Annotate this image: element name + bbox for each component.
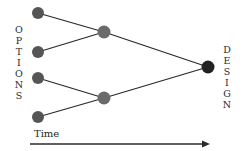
edge-merge-upper-to-design bbox=[104, 32, 208, 67]
design-label-letter: D bbox=[223, 44, 231, 55]
edge-merge-lower-to-design bbox=[104, 67, 208, 98]
options-label: OPTIONS bbox=[14, 24, 24, 101]
design-label: DESIGN bbox=[222, 44, 232, 110]
time-arrow bbox=[30, 141, 210, 148]
nodes bbox=[32, 7, 215, 123]
options-label-letter: I bbox=[17, 57, 21, 68]
design-label-letter: E bbox=[224, 55, 231, 66]
node-option-2 bbox=[32, 46, 44, 58]
time-label: Time bbox=[34, 128, 59, 139]
time-arrowhead-icon bbox=[202, 141, 210, 148]
node-option-1 bbox=[32, 7, 44, 19]
node-option-3 bbox=[32, 72, 44, 84]
edge-option-2-to-merge-upper bbox=[38, 32, 104, 52]
options-label-letter: P bbox=[16, 35, 22, 46]
design-label-letter: S bbox=[224, 66, 231, 77]
node-merge-lower bbox=[98, 92, 111, 105]
edge-option-3-to-merge-lower bbox=[38, 78, 104, 98]
options-label-letter: O bbox=[15, 24, 23, 35]
node-merge-upper bbox=[98, 26, 111, 39]
edge-option-4-to-merge-lower bbox=[38, 98, 104, 117]
edges bbox=[38, 13, 208, 117]
options-label-letter: O bbox=[15, 68, 23, 79]
options-label-letter: S bbox=[16, 90, 23, 101]
edge-option-1-to-merge-upper bbox=[38, 13, 104, 32]
options-label-letter: T bbox=[16, 46, 22, 57]
design-label-letter: N bbox=[223, 99, 231, 110]
options-label-letter: N bbox=[15, 79, 23, 90]
node-design bbox=[202, 61, 215, 74]
design-label-letter: G bbox=[223, 88, 231, 99]
design-label-letter: I bbox=[225, 77, 229, 88]
node-option-4 bbox=[32, 111, 44, 123]
